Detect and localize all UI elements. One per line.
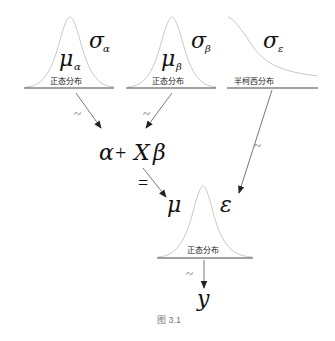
- beta-symbol: β: [152, 140, 166, 165]
- equals-sign: =: [138, 173, 148, 193]
- sigma-epsilon-subscript: ε: [278, 43, 283, 54]
- sigma-beta-subscript: β: [204, 43, 211, 54]
- plus-sign: +: [115, 142, 126, 164]
- tilde-y: ~: [186, 266, 193, 281]
- model-diagram: μ α σ α 正态分布 μ β σ β 正态分布 σ ε 半柯西分布 ~ ~ …: [0, 0, 335, 341]
- mu-alpha-subscript: α: [74, 61, 81, 72]
- edge-equals: =: [138, 168, 166, 197]
- dist-label-alpha: 正态分布: [50, 76, 82, 86]
- linear-predictor: α + X β: [99, 140, 166, 165]
- edge-epsilon: ~: [239, 90, 272, 193]
- figure-caption: 图 3.1: [157, 315, 181, 325]
- mu-alpha-symbol: μ: [59, 46, 73, 71]
- edge-y: ~: [186, 260, 204, 288]
- sigma-alpha-subscript: α: [103, 43, 110, 54]
- dist-label-beta: 正态分布: [152, 76, 184, 86]
- sigma-epsilon-symbol: σ: [263, 28, 279, 53]
- mu-beta-symbol: μ: [161, 46, 175, 71]
- tilde-beta: ~: [143, 106, 150, 121]
- edge-beta: ~: [143, 93, 172, 128]
- x-symbol: X: [132, 140, 151, 165]
- mu-beta-subscript: β: [175, 61, 182, 72]
- mu-symbol: μ: [167, 192, 181, 217]
- observed-y: y: [196, 286, 210, 311]
- likelihood-node: μ ε 正态分布: [157, 186, 253, 258]
- tilde-alpha: ~: [74, 106, 81, 121]
- epsilon-prior-node: σ ε 半柯西分布: [227, 17, 318, 88]
- tilde-epsilon: ~: [254, 138, 261, 153]
- beta-prior-node: μ β σ β 正态分布: [126, 17, 216, 88]
- alpha-prior-node: μ α σ α 正态分布: [24, 17, 114, 88]
- alpha-symbol: α: [99, 140, 114, 165]
- epsilon-symbol: ε: [220, 192, 232, 217]
- dist-label-epsilon: 半柯西分布: [234, 76, 274, 86]
- dist-label-likelihood: 正态分布: [187, 245, 219, 255]
- edge-alpha: ~: [74, 93, 101, 128]
